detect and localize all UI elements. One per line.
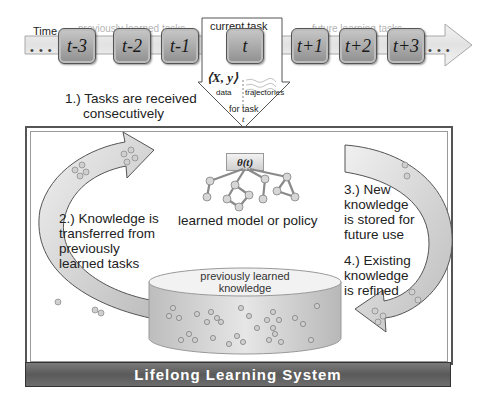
step4-text: 4.) Existing knowledge is refined <box>344 253 411 298</box>
step3-line2: knowledge <box>344 197 415 212</box>
step3-text: 3.) New knowledge is stored for future u… <box>344 182 415 242</box>
model-graph-icon <box>195 165 315 215</box>
knowledge-base-label-line2: knowledge <box>145 282 345 294</box>
step4-line1: 4.) Existing <box>344 253 411 268</box>
knowledge-base-label-line1: previously learned <box>145 270 345 282</box>
model-caption: learned model or policy <box>178 213 318 228</box>
step3-line1: 3.) New <box>344 182 415 197</box>
knowledge-base-label: previously learned knowledge <box>145 270 345 294</box>
step2-line1: 2.) Knowledge is <box>59 211 159 226</box>
step2-line2: transferred from <box>59 226 159 241</box>
step2-line4: learned tasks <box>59 256 159 271</box>
step4-line3: is refined <box>344 283 411 298</box>
step2-text: 2.) Knowledge is transferred from previo… <box>59 211 159 271</box>
step2-line3: previously <box>59 241 159 256</box>
step3-line4: future use <box>344 227 415 242</box>
system-title-bar: Lifelong Learning System <box>25 362 451 387</box>
step3-line3: is stored for <box>344 212 415 227</box>
step4-line2: knowledge <box>344 268 411 283</box>
